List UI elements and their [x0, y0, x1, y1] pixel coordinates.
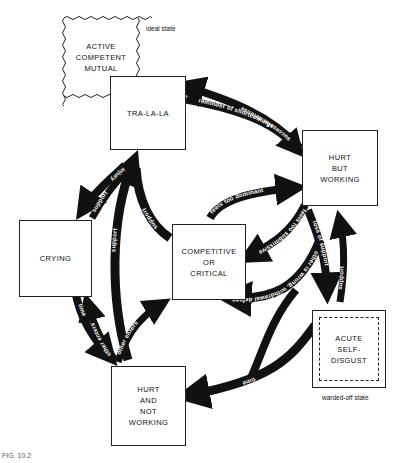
edge-labels: successful defense reminder of shortcomi… [0, 0, 345, 387]
node-label: CRYING [40, 253, 71, 264]
figure-caption: FIG. 10.2 [2, 452, 31, 459]
ideal-state-note: ideal state [146, 25, 176, 32]
warded-off-state-note: warded-off state [322, 394, 369, 401]
node-acute-self-disgust: ACUTE SELF- DISGUST [312, 310, 386, 388]
node-label: ACUTE SELF- DISGUST [331, 333, 367, 366]
node-competitive-or-critical: COMPETITIVE OR CRITICAL [172, 224, 246, 300]
node-label: COMPETITIVE OR CRITICAL [181, 246, 236, 279]
node-crying: CRYING [19, 220, 92, 297]
dashed-inner-border: ACUTE SELF- DISGUST [319, 317, 379, 381]
node-label: HURT AND NOT WORKING [129, 384, 168, 428]
node-hurt-and-not-working: HURT AND NOT WORKING [111, 366, 186, 446]
node-label: TRA-LA-LA [127, 108, 169, 119]
node-hurt-but-working: HURT BUT WORKING [302, 130, 378, 206]
node-label: ACTIVE COMPETENT MUTUAL [76, 41, 127, 74]
node-label: HURT BUT WORKING [320, 152, 359, 185]
node-tra-la-la: TRA-LA-LA [110, 76, 186, 150]
